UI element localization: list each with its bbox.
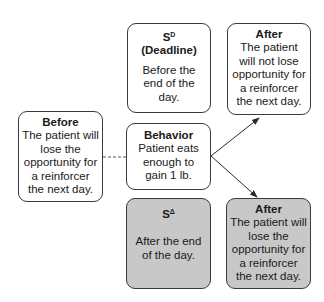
after-bottom-body: The patient will lose the opportunity fo… <box>230 216 307 283</box>
after-top-box: After The patient will not lose opportun… <box>227 23 311 115</box>
before-body: The patient will lose the opportunity fo… <box>22 129 99 196</box>
sd-deadline-box: SD (Deadline) Before the end of the day. <box>127 23 211 113</box>
s-delta-box: SΔ After the end of the day. <box>126 198 211 289</box>
sd-body: Before the end of the day. <box>128 64 210 104</box>
after-bottom-box: After The patient will lose the opportun… <box>226 198 311 289</box>
arrow-behavior-to-after-bottom <box>211 156 257 197</box>
after-top-title: After <box>231 28 307 41</box>
behavior-box: Behavior Patient eats enough to gain 1 l… <box>126 123 211 190</box>
after-top-body: The patient will not lose opportunity fo… <box>231 41 307 108</box>
arrow-behavior-to-after-top <box>211 118 259 156</box>
s-delta-body: After the end of the day. <box>127 235 210 262</box>
behavior-body: Patient eats enough to gain 1 lb. <box>133 142 204 182</box>
sd-symbol: SD <box>128 28 210 44</box>
s-delta-symbol: SΔ <box>127 205 210 221</box>
before-title: Before <box>22 116 99 129</box>
before-box: Before The patient will lose the opportu… <box>18 111 103 202</box>
after-bottom-title: After <box>230 203 307 216</box>
behavior-title: Behavior <box>133 129 204 142</box>
sd-title: (Deadline) <box>128 44 210 57</box>
